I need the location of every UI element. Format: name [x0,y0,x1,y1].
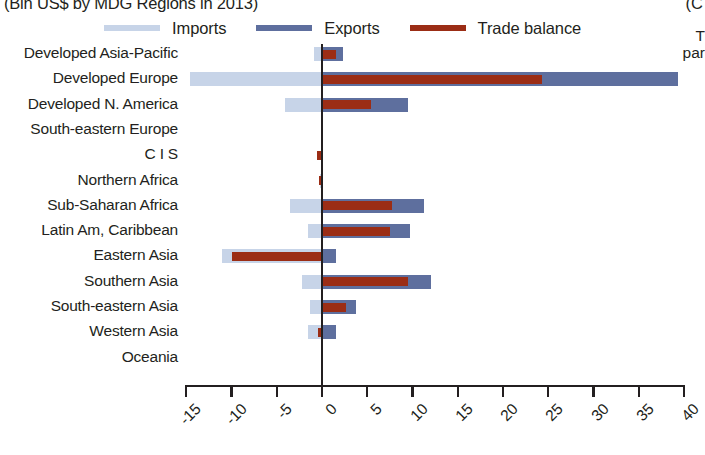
legend-swatch-icon [410,25,466,31]
axis-tick [185,385,187,397]
axis-tick-label: 40 [657,400,702,445]
axis-tick [502,385,504,397]
bar-trade-balance [322,75,542,84]
bar-exports [322,249,336,263]
bar-imports [290,199,322,213]
chart-plot-area: Developed Asia-PacificDeveloped EuropeDe… [0,44,705,455]
axis-tick-label: -10 [205,400,250,445]
axis-tick-label: 15 [431,400,476,445]
zero-reference-line [321,44,323,387]
axis-tick [592,385,594,397]
title-right-fragment: (C [686,0,703,13]
axis-tick [276,385,278,397]
axis-tick [366,385,368,397]
axis-tick-label: 30 [567,400,612,445]
axis-line [186,385,684,387]
bar-exports [322,325,336,339]
axis-tick-label: 20 [476,400,521,445]
legend-label: Imports [172,19,226,38]
bar-trade-balance [232,252,322,261]
axis-tick-label: 35 [612,400,657,445]
bar-trade-balance [322,277,408,286]
bar-trade-balance [322,201,392,210]
chart-title-strip: (Bln US$ by MDG Regions in 2013) (C [0,0,705,16]
legend-label: Exports [324,19,379,38]
annotation-line-1: T [671,27,705,44]
bar-trade-balance [322,50,336,59]
legend-entry-exports: Exports [256,19,379,38]
bar-series-container [0,44,705,384]
axis-tick [638,385,640,397]
legend-entry-trade-balance: Trade balance [410,19,582,38]
axis-tick [457,385,459,397]
axis-tick [683,385,685,397]
bar-trade-balance [322,100,371,109]
legend-entry-imports: Imports [104,19,226,38]
bar-imports [190,72,322,86]
bar-imports [302,275,322,289]
legend-label: Trade balance [478,19,582,38]
value-axis: -15-10-50510152025303540 [0,385,705,455]
bar-imports [308,224,322,238]
chart-legend: ImportsExportsTrade balance [0,17,705,39]
page-title: (Bln US$ by MDG Regions in 2013) [4,0,258,13]
axis-tick-label: 0 [295,400,340,445]
annotation-line-2: par [671,44,705,61]
axis-tick [547,385,549,397]
legend-swatch-icon [256,25,312,31]
axis-tick-label: 10 [386,400,431,445]
axis-tick-label: 25 [522,400,567,445]
bar-trade-balance [322,227,390,236]
clipped-annotation: T par [671,27,705,61]
bar-imports [285,98,322,112]
bar-trade-balance [322,303,346,312]
legend-swatch-icon [104,25,160,31]
axis-tick-label: 5 [341,400,386,445]
axis-tick-label: -5 [250,400,295,445]
axis-tick [230,385,232,397]
axis-tick [411,385,413,397]
axis-tick-label: -15 [160,400,205,445]
